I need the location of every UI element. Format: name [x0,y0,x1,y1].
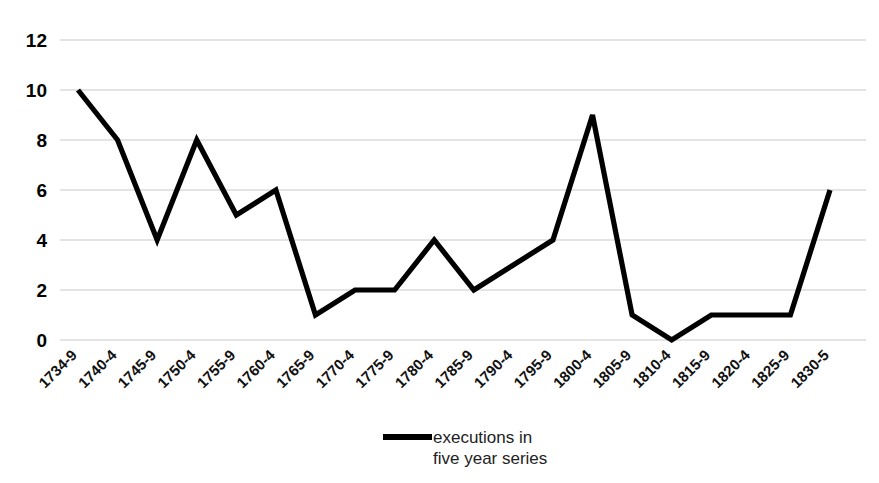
x-tick-label-1755-9: 1755-9 [193,346,238,391]
x-tick-label-1790-4: 1790-4 [470,346,516,392]
y-tick-label-0: 0 [36,330,47,351]
x-axis-tick-labels: 1734-91740-41745-91750-41755-91760-41765… [35,346,832,392]
x-tick-label-1820-4: 1820-4 [708,346,754,392]
x-tick-label-1740-4: 1740-4 [75,346,121,392]
chart-canvas: 024681012 1734-91740-41745-91750-41755-9… [0,0,879,483]
x-tick-label-1810-4: 1810-4 [629,346,675,392]
line-chart: 024681012 1734-91740-41745-91750-41755-9… [0,0,879,483]
x-tick-label-1805-9: 1805-9 [589,346,634,391]
y-tick-label-4: 4 [36,230,47,251]
y-axis-tick-labels: 024681012 [26,30,48,351]
legend-label-line2: five year series [433,449,547,468]
x-tick-label-1815-9: 1815-9 [668,346,713,391]
x-tick-label-1770-4: 1770-4 [312,346,358,392]
x-tick-label-1780-4: 1780-4 [391,346,437,392]
x-tick-label-1734-9: 1734-9 [35,346,80,391]
x-tick-label-1775-9: 1775-9 [352,346,397,391]
y-tick-label-12: 12 [26,30,47,51]
y-tick-label-8: 8 [36,130,47,151]
chart-legend: executions in five year series [383,428,547,468]
y-tick-label-2: 2 [36,280,47,301]
x-tick-label-1795-9: 1795-9 [510,346,555,391]
x-tick-label-1825-9: 1825-9 [747,346,792,391]
x-tick-label-1800-4: 1800-4 [550,346,596,392]
series-line-0 [78,90,830,340]
gridlines [60,40,866,340]
y-tick-label-10: 10 [26,80,47,101]
y-tick-label-6: 6 [36,180,47,201]
x-tick-label-1760-4: 1760-4 [233,346,279,392]
x-tick-label-1745-9: 1745-9 [114,346,159,391]
x-tick-label-1765-9: 1765-9 [273,346,318,391]
x-tick-label-1785-9: 1785-9 [431,346,476,391]
data-series [78,90,830,340]
x-tick-label-1830-5: 1830-5 [787,346,832,391]
x-tick-label-1750-4: 1750-4 [154,346,200,392]
legend-label-line1: executions in [433,428,532,447]
